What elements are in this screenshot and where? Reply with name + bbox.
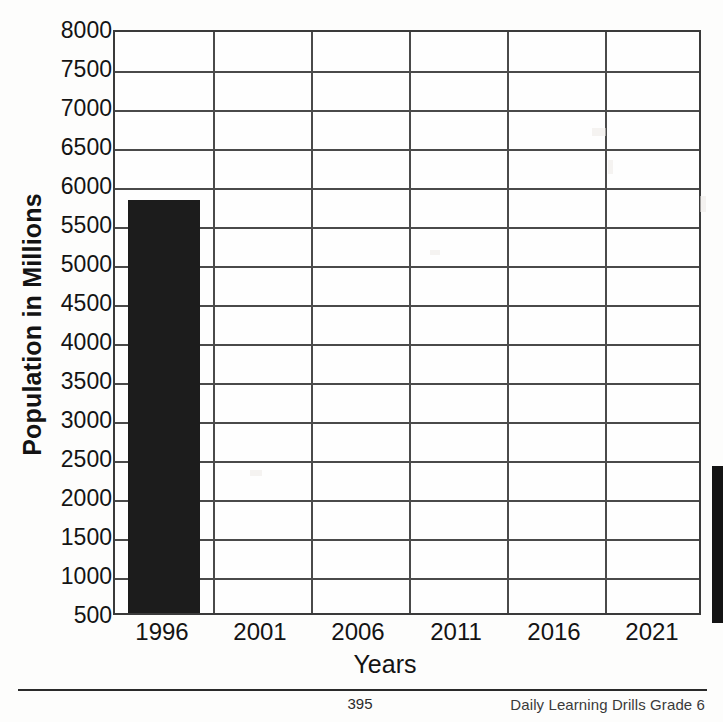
y-axis-tick-label: 5500 [44, 214, 112, 237]
chart-bar [128, 200, 200, 613]
y-axis-tick-label: 5000 [44, 253, 112, 276]
gridline-horizontal [115, 305, 699, 307]
gridline-horizontal [115, 422, 699, 424]
chart-plot-area [113, 30, 701, 615]
y-axis-tick-label: 3500 [44, 370, 112, 393]
gridline-horizontal [115, 266, 699, 268]
y-axis-tick-label: 4000 [44, 331, 112, 354]
y-axis-tick-label: 7000 [44, 97, 112, 120]
y-axis-tick-label: 2000 [44, 487, 112, 510]
gridline-horizontal [115, 110, 699, 112]
gridline-horizontal [115, 188, 699, 190]
y-axis-title: Population in Millions [18, 125, 47, 525]
page-edge-artifact [712, 466, 723, 623]
y-axis-tick-label: 1500 [44, 526, 112, 549]
gridline-horizontal [115, 500, 699, 502]
y-axis-tick-label: 1000 [44, 565, 112, 588]
worksheet-page: Population in Millions 80007500700065006… [0, 0, 723, 722]
gridline-vertical [507, 32, 509, 613]
gridline-horizontal [115, 71, 699, 73]
y-axis-tick-label: 500 [44, 604, 112, 627]
x-axis-tick-label: 1996 [113, 618, 211, 646]
gridline-horizontal [115, 344, 699, 346]
x-axis-tick-label: 2011 [407, 618, 505, 646]
x-axis-tick-label: 2016 [505, 618, 603, 646]
y-axis-tick-label: 7500 [44, 58, 112, 81]
y-axis-tick-label: 3000 [44, 409, 112, 432]
x-axis-tick-label: 2006 [309, 618, 407, 646]
x-axis-tick-label: 2001 [211, 618, 309, 646]
gridline-horizontal [115, 578, 699, 580]
footer-credit: Daily Learning Drills Grade 6 [510, 696, 705, 713]
gridline-vertical [311, 32, 313, 613]
page-number: 395 [320, 695, 400, 712]
x-axis-title: Years [285, 650, 485, 679]
gridline-horizontal [115, 539, 699, 541]
y-axis-tick-labels: 8000750070006500600055005000450040003500… [44, 0, 112, 660]
gridline-horizontal [115, 227, 699, 229]
y-axis-tick-label: 4500 [44, 292, 112, 315]
footer-divider [18, 689, 707, 691]
gridline-vertical [605, 32, 607, 613]
gridline-vertical [409, 32, 411, 613]
y-axis-tick-label: 6000 [44, 175, 112, 198]
gridline-horizontal [115, 383, 699, 385]
gridline-horizontal [115, 149, 699, 151]
gridline-horizontal [115, 461, 699, 463]
x-axis-tick-label: 2021 [603, 618, 701, 646]
y-axis-tick-label: 2500 [44, 448, 112, 471]
gridline-vertical [213, 32, 215, 613]
y-axis-tick-label: 6500 [44, 136, 112, 159]
y-axis-tick-label: 8000 [44, 19, 112, 42]
